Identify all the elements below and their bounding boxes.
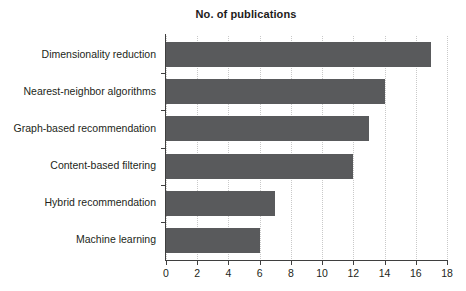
category-label: Dimensionality reduction <box>0 48 156 60</box>
x-tick-12 <box>353 261 354 265</box>
category-label: Content-based filtering <box>0 159 156 171</box>
bar <box>166 79 385 104</box>
x-tick-2 <box>197 261 198 265</box>
x-tick-label-12: 12 <box>338 267 368 279</box>
x-tick-label-18: 18 <box>432 267 462 279</box>
x-tick-label-14: 14 <box>370 267 400 279</box>
x-tick-4 <box>228 261 229 265</box>
x-tick-label-4: 4 <box>213 267 243 279</box>
x-tick-18 <box>447 261 448 265</box>
bar-chart: No. of publications Dimensionality reduc… <box>0 0 466 291</box>
x-tick-8 <box>291 261 292 265</box>
bar <box>166 191 275 216</box>
bar <box>166 228 260 253</box>
x-tick-label-16: 16 <box>401 267 431 279</box>
bar <box>166 42 431 67</box>
x-tick-16 <box>416 261 417 265</box>
x-axis-line <box>165 260 448 261</box>
chart-title: No. of publications <box>0 8 466 20</box>
bar <box>166 116 369 141</box>
x-tick-0 <box>166 261 167 265</box>
x-tick-10 <box>322 261 323 265</box>
category-label: Nearest-neighbor algorithms <box>0 85 156 97</box>
x-tick-label-0: 0 <box>151 267 181 279</box>
x-tick-6 <box>260 261 261 265</box>
category-label: Graph-based recommendation <box>0 122 156 134</box>
category-label: Machine learning <box>0 233 156 245</box>
category-label: Hybrid recommendation <box>0 196 156 208</box>
x-tick-label-8: 8 <box>276 267 306 279</box>
x-tick-label-6: 6 <box>245 267 275 279</box>
bar <box>166 154 353 179</box>
x-tick-label-10: 10 <box>307 267 337 279</box>
x-tick-label-2: 2 <box>182 267 212 279</box>
gridline-18 <box>447 36 448 259</box>
x-tick-14 <box>385 261 386 265</box>
bar-series <box>166 36 447 259</box>
